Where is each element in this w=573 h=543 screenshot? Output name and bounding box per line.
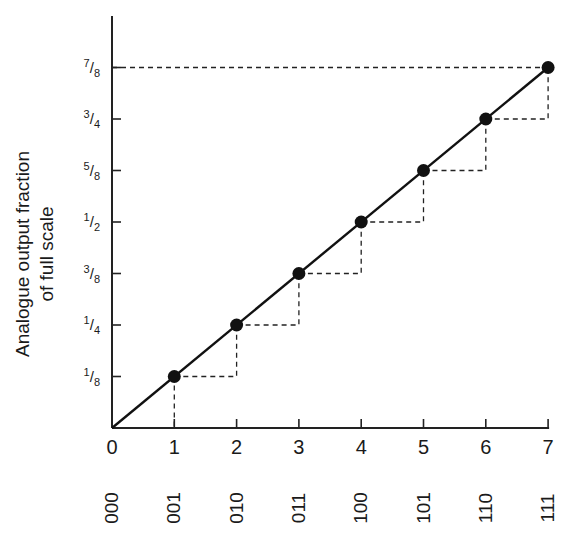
binary-code-label: 111 xyxy=(537,486,559,530)
data-point xyxy=(417,164,430,177)
data-point xyxy=(168,370,181,383)
data-point xyxy=(230,319,243,332)
binary-code-label: 001 xyxy=(163,486,185,530)
y-tick-label: 1/4 xyxy=(70,314,100,336)
data-point xyxy=(542,61,555,74)
x-tick-label: 5 xyxy=(409,436,439,459)
binary-code-label: 010 xyxy=(226,486,248,530)
binary-code-label: 000 xyxy=(101,486,123,530)
y-tick-label: 7/8 xyxy=(70,57,100,79)
binary-code-label: 100 xyxy=(350,486,372,530)
y-axis-title: Analogue output fractionof full scale xyxy=(11,124,59,384)
y-tick-label: 1/2 xyxy=(70,211,100,233)
data-point xyxy=(355,216,368,229)
binary-code-label: 101 xyxy=(413,486,435,530)
y-tick-label: 3/8 xyxy=(70,263,100,285)
data-point xyxy=(479,113,492,126)
y-tick-label: 1/8 xyxy=(70,366,100,388)
x-tick-label: 3 xyxy=(284,436,314,459)
y-tick-label: 5/8 xyxy=(70,160,100,182)
x-tick-label: 2 xyxy=(222,436,252,459)
data-point xyxy=(292,267,305,280)
x-tick-label: 1 xyxy=(159,436,189,459)
x-tick-label: 7 xyxy=(533,436,563,459)
x-tick-label: 0 xyxy=(97,436,127,459)
y-tick-label: 3/4 xyxy=(70,108,100,130)
binary-code-label: 110 xyxy=(475,486,497,530)
binary-code-label: 011 xyxy=(288,486,310,530)
x-tick-label: 4 xyxy=(346,436,376,459)
x-tick-label: 6 xyxy=(471,436,501,459)
